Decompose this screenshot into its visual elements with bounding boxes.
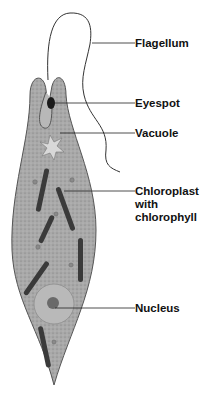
eyespot: [47, 97, 55, 109]
label-chloroplast-line1: Chloroplast: [135, 185, 199, 197]
nucleolus: [47, 297, 59, 309]
label-flagellum: Flagellum: [135, 37, 189, 49]
label-chloroplast-line3: chlorophyll: [135, 211, 197, 223]
chloroplast: [78, 238, 83, 282]
label-chloroplast-line2: with: [135, 198, 158, 210]
label-nucleus: Nucleus: [135, 302, 180, 314]
label-vacuole: Vacuole: [135, 127, 178, 139]
euglena-body: [12, 78, 96, 385]
label-eyespot: Eyespot: [135, 97, 180, 109]
euglena-illustration: [0, 0, 208, 394]
